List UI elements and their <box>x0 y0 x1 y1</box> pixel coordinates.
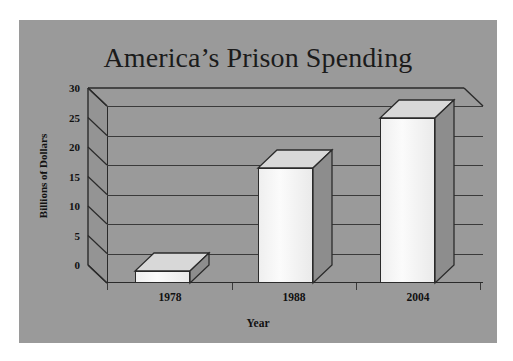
chart-screenshot: America’s Prison Spending Billions of Do… <box>0 0 513 361</box>
x-tick-mark-1 <box>232 283 233 290</box>
bar-1988-3d <box>258 88 332 283</box>
chart-title: America’s Prison Spending <box>19 42 497 74</box>
y-tick-label-15: 15 <box>69 171 88 183</box>
x-axis-title: Year <box>19 317 497 329</box>
bar-2004-3d <box>380 88 454 283</box>
x-tick-mark-3 <box>480 283 481 290</box>
x-tick-label-1988: 1988 <box>283 291 306 303</box>
y-axis-title: Billions of Dollars <box>37 106 49 246</box>
y-tick-label-10: 10 <box>69 200 88 212</box>
y-tick-label-20: 20 <box>69 141 88 153</box>
bar-1988 <box>258 88 332 283</box>
bar-1978 <box>135 88 209 283</box>
bar-2004 <box>380 88 454 283</box>
y-tick-label-0: 0 <box>75 259 89 271</box>
y-tick-label-25: 25 <box>69 112 88 124</box>
x-tick-label-2004: 2004 <box>407 291 430 303</box>
x-tick-label-1978: 1978 <box>159 291 182 303</box>
slide-panel: America’s Prison Spending Billions of Do… <box>19 20 497 343</box>
x-tick-mark-2 <box>356 283 357 290</box>
plot-area: 30 25 20 15 10 5 0 <box>88 88 483 293</box>
y-tick-label-30: 30 <box>69 82 88 94</box>
x-tick-mark-0 <box>107 283 108 290</box>
y-tick-label-5: 5 <box>75 230 89 242</box>
bar-1978-3d <box>135 88 209 283</box>
